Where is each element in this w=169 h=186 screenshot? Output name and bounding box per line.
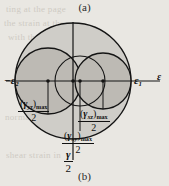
caption-b: (b) [0,170,169,182]
figure-container: ting at the page the strain at the with … [0,0,169,186]
label-epsilon-2: −ε2 [4,74,19,87]
mohrs-circle-figure [0,0,169,186]
label-epsilon-1: ε1 [134,74,142,87]
annotation-gamma-xy-max: (γxy)max 2 [62,131,94,155]
label-epsilon-axis: ε [157,71,161,82]
annotation-gamma-xz-max: (γxz)max 2 [78,109,110,133]
center-dot-origin [71,79,75,83]
annotation-gamma-yz-max: (γyz)max 2 [18,99,49,123]
